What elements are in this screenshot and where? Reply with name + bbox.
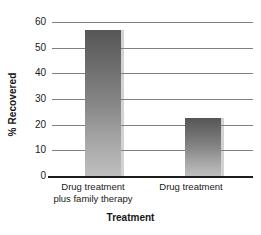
x-category-label-1-line1: Drug treatment bbox=[35, 181, 151, 193]
bar-chart: % Recovered 60 50 40 30 20 10 0 Drug tre… bbox=[0, 0, 261, 235]
x-axis-line bbox=[48, 176, 253, 178]
gridline-40 bbox=[52, 73, 253, 74]
x-axis-title: Treatment bbox=[0, 212, 261, 223]
y-tick-10: 10 bbox=[2, 145, 46, 155]
bar-drug-treatment bbox=[185, 118, 221, 176]
y-tick-50: 50 bbox=[2, 43, 46, 53]
gridline-50 bbox=[52, 48, 253, 49]
x-category-label-1: Drug treatment plus family therapy bbox=[35, 181, 151, 204]
gridline-30 bbox=[52, 99, 253, 100]
x-category-label-1-line2: plus family therapy bbox=[35, 193, 151, 205]
plot-area bbox=[52, 22, 253, 176]
gridline-60 bbox=[52, 22, 253, 23]
x-category-label-2-line1: Drug treatment bbox=[136, 181, 246, 193]
y-tick-30: 30 bbox=[2, 94, 46, 104]
bar-drug-plus-family-therapy bbox=[85, 30, 121, 176]
y-axis-tick-labels: 60 50 40 30 20 10 0 bbox=[0, 22, 46, 176]
y-tick-40: 40 bbox=[2, 68, 46, 78]
y-tick-20: 20 bbox=[2, 120, 46, 130]
y-tick-60: 60 bbox=[2, 17, 46, 27]
y-tick-0: 0 bbox=[2, 171, 46, 181]
x-category-label-2: Drug treatment bbox=[136, 181, 246, 193]
